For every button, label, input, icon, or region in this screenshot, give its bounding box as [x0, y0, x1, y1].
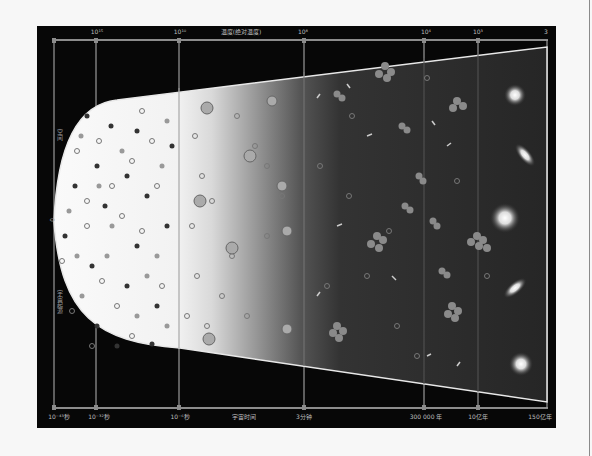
universe-evolution-diagram: 10¹⁵ 10¹⁰ 温度(绝对温度) 10⁸ 10⁴ 10³ 3 10⁻⁴³秒 …	[37, 26, 556, 428]
top-tick-label: 3	[544, 28, 548, 35]
top-tick-label: 10⁴	[421, 28, 431, 35]
top-tick-label: 10¹⁵	[91, 28, 103, 35]
bottom-tick-label: 3分钟	[296, 413, 312, 420]
bottom-tick-label: 10⁻³²秒	[88, 413, 110, 420]
bottom-tick-label: 10亿年	[468, 413, 488, 420]
bottom-axis-title: 宇宙时间	[232, 413, 256, 420]
bottom-tick-label: 10⁻⁴³秒	[48, 413, 70, 420]
top-tick-label: 10⁸	[298, 28, 308, 35]
left-axis-zero-label: 0	[49, 218, 56, 222]
universe-cone	[54, 47, 547, 402]
cone-artwork	[37, 26, 556, 428]
bottom-tick-label: 300 000 年	[410, 413, 443, 420]
bottom-tick-label: 10⁻⁶秒	[170, 413, 189, 420]
top-tick-label: 10¹⁰	[174, 28, 186, 35]
top-tick-label: 10³	[473, 28, 483, 35]
left-axis-upper-label: 空间	[55, 129, 64, 141]
page-edge-line	[589, 0, 590, 456]
top-axis-title: 温度(绝对温度)	[221, 28, 262, 35]
left-axis-lower-label: 宇宙起源	[55, 290, 64, 314]
bottom-tick-label: 150亿年	[528, 413, 551, 420]
